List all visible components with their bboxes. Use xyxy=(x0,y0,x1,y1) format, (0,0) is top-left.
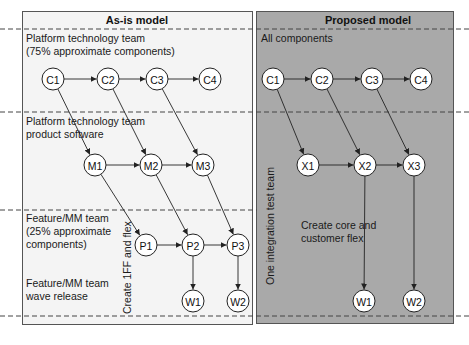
as-is-node-w1: W1 xyxy=(182,290,204,312)
node-label: M3 xyxy=(196,160,211,172)
node-label: P2 xyxy=(187,240,200,252)
node-label: C3 xyxy=(365,74,379,86)
as-is-title: As-is model xyxy=(106,14,168,26)
node-label: W2 xyxy=(406,296,422,308)
diagram-canvas: As-is model Proposed model Platform tech… xyxy=(0,0,469,345)
proposed-node-w2: W2 xyxy=(403,290,425,312)
node-label: W1 xyxy=(356,296,372,308)
proposed-node-x1: X1 xyxy=(297,154,319,176)
as-is-node-p3: P3 xyxy=(227,234,249,256)
proposed-node-x3: X3 xyxy=(403,154,425,176)
node-label: W1 xyxy=(185,296,201,308)
as-is-node-p2: P2 xyxy=(182,234,204,256)
as-is-node-m1: M1 xyxy=(84,154,106,176)
node-label: X3 xyxy=(408,160,421,172)
node-label: P1 xyxy=(140,240,153,252)
node-label: C1 xyxy=(266,74,280,86)
as-is-node-p1: P1 xyxy=(135,234,157,256)
node-label: X1 xyxy=(302,160,315,172)
node-label: C4 xyxy=(414,74,428,86)
proposed-node-c1: C1 xyxy=(262,68,284,90)
as-is-node-w2: W2 xyxy=(227,290,249,312)
node-label: M1 xyxy=(88,160,103,172)
node-label: X2 xyxy=(359,160,372,172)
proposed-node-w1: W1 xyxy=(353,290,375,312)
as-is-node-m2: M2 xyxy=(140,154,162,176)
proposed-node-c4: C4 xyxy=(410,68,432,90)
vertical-label-create-1ff: Create 1FF and flex xyxy=(121,220,133,314)
vertical-label-integration-team: One integration test team xyxy=(264,167,276,285)
node-label: C2 xyxy=(315,74,329,86)
proposed-node-x2: X2 xyxy=(354,154,376,176)
node-label: M2 xyxy=(144,160,159,172)
proposed-node-c3: C3 xyxy=(361,68,383,90)
as-is-node-m3: M3 xyxy=(192,154,214,176)
proposed-title: Proposed model xyxy=(325,14,411,26)
node-label: C3 xyxy=(150,74,164,86)
node-label: P3 xyxy=(232,240,245,252)
node-label: C1 xyxy=(46,74,60,86)
as-is-node-c1: C1 xyxy=(42,68,64,90)
as-is-node-c2: C2 xyxy=(97,68,119,90)
as-is-node-c4: C4 xyxy=(199,68,221,90)
node-label: C4 xyxy=(203,74,217,86)
as-is-node-c3: C3 xyxy=(146,68,168,90)
node-label: C2 xyxy=(101,74,115,86)
proposed-node-c2: C2 xyxy=(311,68,333,90)
lane-label-all-components: All components xyxy=(261,32,333,44)
node-label: W2 xyxy=(230,296,246,308)
